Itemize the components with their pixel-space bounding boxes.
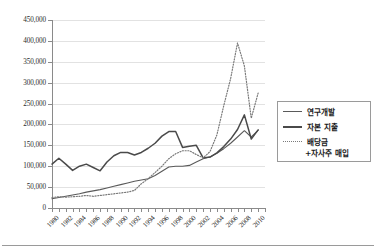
y-tick-mark bbox=[48, 124, 52, 125]
x-tick-mark bbox=[100, 208, 101, 212]
x-tick-mark bbox=[265, 208, 266, 212]
y-tick-label: 400,000 bbox=[23, 37, 46, 45]
y-tick-label: 300,000 bbox=[23, 79, 46, 87]
gridline bbox=[52, 145, 265, 146]
gridline bbox=[52, 124, 265, 125]
x-tick-label: 1986 bbox=[87, 214, 102, 229]
legend-item-rnd: 연구개발 bbox=[283, 105, 335, 118]
x-tick-mark bbox=[189, 208, 190, 212]
x-tick-mark bbox=[244, 208, 245, 212]
y-tick-mark bbox=[48, 187, 52, 188]
x-tick-label: 1994 bbox=[142, 214, 157, 229]
x-tick-mark bbox=[224, 208, 225, 212]
chart-legend: 연구개발 자본 지출 배당금 +자사주 매입 bbox=[277, 101, 371, 162]
x-tick-mark bbox=[107, 208, 108, 212]
x-tick-mark bbox=[59, 208, 60, 212]
legend-item-capex: 자본 지출 bbox=[283, 120, 338, 133]
y-tick-label: 0 bbox=[43, 204, 47, 212]
y-tick-label: 250,000 bbox=[23, 100, 46, 108]
legend-swatch-solid-thick bbox=[283, 126, 302, 128]
plot-area bbox=[52, 20, 265, 208]
y-tick-mark bbox=[48, 166, 52, 167]
x-tick-mark bbox=[155, 208, 156, 212]
gridline bbox=[52, 83, 265, 84]
y-tick-mark bbox=[48, 41, 52, 42]
x-tick-label: 2000 bbox=[183, 214, 198, 229]
x-tick-mark bbox=[141, 208, 142, 212]
legend-label-dividends-line2: +자사주 매입 bbox=[305, 147, 349, 158]
legend-swatch-dotted bbox=[283, 141, 302, 142]
y-tick-mark bbox=[48, 20, 52, 21]
x-tick-label: 1988 bbox=[100, 214, 115, 229]
y-tick-label: 150,000 bbox=[23, 141, 46, 149]
gridline bbox=[52, 187, 265, 188]
x-tick-mark bbox=[238, 208, 239, 212]
x-tick-mark bbox=[196, 208, 197, 212]
x-tick-mark bbox=[93, 208, 94, 212]
x-axis-line bbox=[52, 208, 266, 209]
x-tick-mark bbox=[134, 208, 135, 212]
x-tick-mark bbox=[176, 208, 177, 212]
x-tick-mark bbox=[169, 208, 170, 212]
x-tick-mark bbox=[73, 208, 74, 212]
gridline bbox=[52, 104, 265, 105]
x-tick-mark bbox=[162, 208, 163, 212]
x-tick-label: 1990 bbox=[114, 214, 129, 229]
x-tick-mark bbox=[86, 208, 87, 212]
y-tick-label: 100,000 bbox=[23, 162, 46, 170]
y-tick-label: 350,000 bbox=[23, 58, 46, 66]
x-tick-label: 1982 bbox=[59, 214, 74, 229]
x-tick-label: 1984 bbox=[73, 214, 88, 229]
gridline bbox=[52, 166, 265, 167]
x-tick-label: 2002 bbox=[197, 214, 212, 229]
bottom-divider bbox=[2, 245, 374, 246]
x-tick-label: 1980 bbox=[45, 214, 60, 229]
x-tick-mark bbox=[66, 208, 67, 212]
x-tick-label: 1998 bbox=[169, 214, 184, 229]
legend-label-capex: 자본 지출 bbox=[307, 121, 338, 132]
legend-label-rnd: 연구개발 bbox=[307, 106, 335, 117]
x-tick-mark bbox=[217, 208, 218, 212]
x-tick-mark bbox=[210, 208, 211, 212]
y-tick-mark bbox=[48, 62, 52, 63]
gridline bbox=[52, 62, 265, 63]
x-tick-mark bbox=[258, 208, 259, 212]
x-tick-mark bbox=[128, 208, 129, 212]
x-tick-mark bbox=[251, 208, 252, 212]
x-tick-mark bbox=[231, 208, 232, 212]
x-tick-label: 2004 bbox=[210, 214, 225, 229]
x-tick-label: 2006 bbox=[224, 214, 239, 229]
chart-container: 050,000100,000150,000200,000250,000300,0… bbox=[0, 0, 376, 252]
gridline bbox=[52, 41, 265, 42]
x-tick-mark bbox=[183, 208, 184, 212]
x-tick-mark bbox=[52, 208, 53, 212]
legend-swatch-solid-thin bbox=[283, 111, 302, 112]
x-tick-mark bbox=[79, 208, 80, 212]
x-tick-label: 1996 bbox=[155, 214, 170, 229]
y-tick-mark bbox=[48, 145, 52, 146]
y-tick-label: 200,000 bbox=[23, 120, 46, 128]
x-tick-label: 1992 bbox=[128, 214, 143, 229]
gridline bbox=[52, 20, 265, 21]
x-tick-mark bbox=[148, 208, 149, 212]
x-tick-label: 2008 bbox=[238, 214, 253, 229]
x-tick-mark bbox=[114, 208, 115, 212]
y-axis-line bbox=[52, 20, 53, 209]
y-tick-label: 50,000 bbox=[27, 183, 46, 191]
x-tick-mark bbox=[121, 208, 122, 212]
y-tick-label: 450,000 bbox=[23, 16, 46, 24]
x-tick-label: 2010 bbox=[252, 214, 267, 229]
y-tick-mark bbox=[48, 104, 52, 105]
legend-label-dividends: 배당금 bbox=[307, 136, 328, 147]
y-tick-mark bbox=[48, 83, 52, 84]
x-tick-mark bbox=[203, 208, 204, 212]
